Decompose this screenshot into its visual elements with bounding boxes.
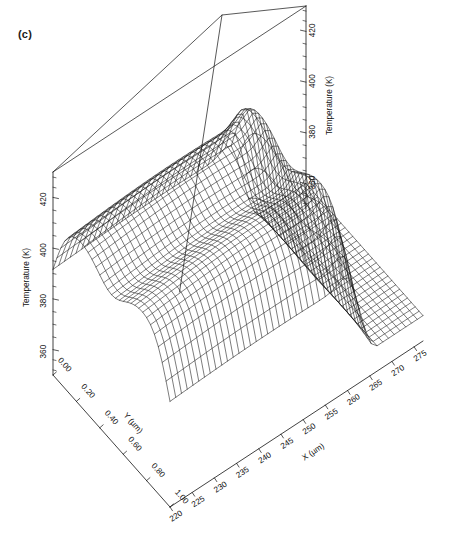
z-left-tick-label: 360 xyxy=(39,344,48,358)
mesh-line-x xyxy=(53,237,170,402)
x-tick-label: 245 xyxy=(279,436,296,451)
y-tick-label: 0.80 xyxy=(150,461,168,479)
x-tick xyxy=(325,405,327,409)
y-tick-label: 0.40 xyxy=(103,409,121,427)
z-right-tick-label: 360 xyxy=(308,175,317,189)
mesh-line-x xyxy=(272,206,389,338)
mesh-line-x xyxy=(93,207,210,373)
z-left-minor-tick xyxy=(53,337,56,338)
figure-panel: (c) 360380400420Temperature (K)360380400… xyxy=(0,0,473,536)
z-right-minor-tick xyxy=(303,145,306,146)
z-left-tick-label: 420 xyxy=(39,192,48,206)
z-right-tick-label: 380 xyxy=(308,125,317,139)
x-tick xyxy=(348,391,350,395)
z-right-minor-tick xyxy=(303,170,306,171)
y-tick xyxy=(53,372,56,375)
mesh-line-x xyxy=(128,183,245,350)
x-tick-label: 275 xyxy=(412,348,429,363)
mesh-line-x xyxy=(59,232,176,397)
z-right-minor-tick xyxy=(303,158,306,159)
z-left-minor-tick xyxy=(53,235,56,236)
x-tick xyxy=(259,449,261,453)
mesh-line-x xyxy=(70,224,187,389)
mesh-line-y xyxy=(143,184,396,315)
x-tick xyxy=(414,347,416,351)
x-tick xyxy=(303,420,305,424)
mesh-line-x xyxy=(306,184,423,316)
z-right-minor-tick xyxy=(303,119,306,120)
mesh-line-x xyxy=(277,202,394,334)
x-tick-label: 265 xyxy=(368,377,385,392)
z-left-tick xyxy=(53,299,59,300)
z-right-minor-tick xyxy=(303,94,306,95)
mesh-line-x xyxy=(88,211,205,377)
mesh-line-y xyxy=(170,278,423,402)
x-tick xyxy=(170,507,172,511)
y-axis-baseline xyxy=(53,375,170,507)
x-axis-title: X (µm) xyxy=(300,441,326,462)
z-right-tick-label: 420 xyxy=(308,23,317,37)
z-left-minor-tick xyxy=(53,360,56,361)
z-left-minor-tick xyxy=(53,261,56,262)
mesh-line-x xyxy=(82,216,199,382)
z-left-tick-label: 380 xyxy=(39,294,48,308)
mesh-line-x xyxy=(300,187,417,319)
z-right-tick xyxy=(301,132,307,133)
x-tick-label: 255 xyxy=(323,407,340,422)
z-left-minor-tick xyxy=(53,324,56,325)
z-right-axis-title: Temperature (K) xyxy=(325,76,334,135)
x-tick xyxy=(214,478,216,482)
x-tick-label: 260 xyxy=(345,392,362,407)
z-left-minor-tick xyxy=(53,187,56,188)
y-tick xyxy=(100,425,103,428)
z-right-tick-label: 400 xyxy=(308,74,317,88)
z-left-tick xyxy=(53,197,59,198)
surface-plot-svg: 360380400420Temperature (K)360380400420T… xyxy=(0,0,473,536)
box-top-back-edge xyxy=(53,6,306,172)
z-left-minor-tick xyxy=(53,223,56,224)
mesh-line-x xyxy=(76,220,193,385)
y-tick xyxy=(147,478,150,481)
mesh-line-x xyxy=(283,199,400,331)
z-left-minor-tick xyxy=(53,177,56,178)
z-right-minor-tick xyxy=(303,21,306,22)
x-tick-label: 235 xyxy=(234,465,251,480)
mesh-line-x xyxy=(266,210,383,342)
z-left-axis-title: Temperature (K) xyxy=(22,248,31,307)
plot-box-frame xyxy=(53,6,423,507)
z-left-minor-tick xyxy=(53,370,56,371)
z-left-minor-tick xyxy=(53,210,56,211)
z-left-minor-tick xyxy=(53,286,56,287)
x-tick xyxy=(192,492,194,496)
x-tick-label: 250 xyxy=(301,421,318,436)
y-tick xyxy=(123,451,126,454)
surface-wireframe xyxy=(53,109,423,402)
y-tick-label: 0.60 xyxy=(126,435,144,453)
x-tick xyxy=(392,361,394,365)
x-tick xyxy=(281,434,283,438)
x-axis-baseline xyxy=(170,341,423,507)
z-right-minor-tick xyxy=(303,107,306,108)
z-right-tick xyxy=(301,81,307,82)
x-tick xyxy=(370,376,372,380)
z-right-minor-tick xyxy=(303,56,306,57)
x-tick-label: 270 xyxy=(390,363,407,378)
mesh-line-y xyxy=(73,109,326,237)
z-right-minor-tick xyxy=(303,43,306,44)
axes-ticks xyxy=(53,10,417,510)
z-right-minor-tick xyxy=(303,10,306,11)
y-tick-label: 0.20 xyxy=(79,382,97,400)
y-tick-label: 0.00 xyxy=(56,356,74,374)
z-left-minor-tick xyxy=(53,274,56,275)
z-left-minor-tick xyxy=(53,312,56,313)
z-right-tick xyxy=(301,30,307,31)
x-tick xyxy=(237,463,239,467)
y-axis-title: Y (µm) xyxy=(122,411,145,436)
mesh-line-x xyxy=(134,179,251,346)
x-tick-label: 225 xyxy=(190,494,207,509)
z-left-tick xyxy=(53,350,59,351)
mesh-line-x xyxy=(122,187,239,354)
x-tick-label: 220 xyxy=(168,508,185,523)
y-tick xyxy=(76,398,79,401)
z-left-tick-label: 400 xyxy=(39,243,48,257)
